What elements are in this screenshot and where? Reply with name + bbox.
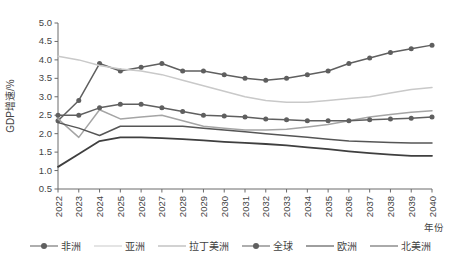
x-tick-label: 2025 bbox=[115, 196, 126, 217]
y-tick-label: 2.0 bbox=[39, 128, 52, 139]
y-tick-label: 5.0 bbox=[39, 17, 52, 28]
legend-marker-icon bbox=[253, 243, 259, 249]
y-tick-label: 4.5 bbox=[39, 35, 52, 46]
legend-item-2[interactable]: 亚洲 bbox=[94, 238, 145, 253]
legend-label: 北美洲 bbox=[401, 238, 431, 253]
x-tick-label: 2027 bbox=[156, 196, 167, 217]
series-marker bbox=[367, 56, 372, 61]
y-tick-label: 2.5 bbox=[39, 109, 52, 120]
series-marker bbox=[263, 78, 268, 83]
series-marker bbox=[139, 65, 144, 70]
x-tick-label: 2038 bbox=[385, 196, 396, 217]
series-marker bbox=[180, 68, 185, 73]
x-tick-label: 2031 bbox=[240, 196, 251, 217]
legend-label: 亚洲 bbox=[125, 238, 145, 253]
chart-canvas: 0.51.01.52.02.53.03.54.04.55.02022202320… bbox=[0, 0, 461, 268]
legend-item-3[interactable]: 拉丁美洲 bbox=[158, 238, 229, 253]
series-marker bbox=[159, 61, 164, 66]
legend-swatch bbox=[306, 240, 334, 251]
legend-swatch bbox=[242, 240, 270, 251]
legend-marker-icon bbox=[41, 243, 47, 249]
series-line bbox=[58, 110, 432, 138]
series-marker bbox=[284, 76, 289, 81]
x-tick-label: 2024 bbox=[94, 196, 105, 217]
series-1 bbox=[56, 43, 435, 124]
y-tick-label: 0.5 bbox=[39, 183, 52, 194]
legend-item-5[interactable]: 欧洲 bbox=[306, 238, 357, 253]
x-tick-label: 2032 bbox=[260, 196, 271, 217]
series-marker bbox=[284, 117, 289, 122]
legend-swatch bbox=[370, 240, 398, 251]
x-tick-label: 2040 bbox=[427, 196, 438, 217]
chart-legend: 非洲亚洲拉丁美洲全球欧洲北美洲 bbox=[0, 238, 461, 253]
series-marker bbox=[326, 118, 331, 123]
legend-label: 非洲 bbox=[61, 238, 81, 253]
legend-swatch bbox=[30, 240, 58, 251]
x-tick-label: 2035 bbox=[323, 196, 334, 217]
legend-swatch bbox=[94, 240, 122, 251]
legend-line-icon bbox=[306, 245, 334, 246]
legend-item-6[interactable]: 北美洲 bbox=[370, 238, 431, 253]
x-tick-label: 2029 bbox=[198, 196, 209, 217]
series-marker bbox=[326, 68, 331, 73]
y-tick-label: 1.5 bbox=[39, 146, 52, 157]
legend-label: 全球 bbox=[273, 238, 293, 253]
x-tick-label: 2034 bbox=[302, 196, 313, 217]
x-tick-label: 2028 bbox=[177, 196, 188, 217]
legend-line-icon bbox=[94, 245, 122, 246]
y-tick-label: 3.5 bbox=[39, 72, 52, 83]
series-marker bbox=[388, 50, 393, 55]
y-tick-label: 1.0 bbox=[39, 165, 52, 176]
series-marker bbox=[409, 116, 414, 121]
x-tick-label: 2022 bbox=[53, 196, 64, 217]
y-tick-label: 4.0 bbox=[39, 54, 52, 65]
series-marker bbox=[346, 61, 351, 66]
x-tick-label: 2033 bbox=[281, 196, 292, 217]
series-marker bbox=[367, 117, 372, 122]
legend-line-icon bbox=[158, 245, 186, 246]
series-marker bbox=[159, 105, 164, 110]
x-tick-label: 2036 bbox=[343, 196, 354, 217]
y-axis-title: GDP增速/% bbox=[4, 79, 16, 132]
series-marker bbox=[201, 68, 206, 73]
series-marker bbox=[243, 76, 248, 81]
series-marker bbox=[305, 72, 310, 77]
series-marker bbox=[180, 109, 185, 114]
series-marker bbox=[222, 72, 227, 77]
series-marker bbox=[97, 105, 102, 110]
series-marker bbox=[388, 116, 393, 121]
x-tick-label: 2030 bbox=[219, 196, 230, 217]
x-axis-title: 年份 bbox=[424, 222, 444, 233]
series-marker bbox=[305, 118, 310, 123]
series-marker bbox=[139, 102, 144, 107]
series-marker bbox=[118, 102, 123, 107]
legend-label: 欧洲 bbox=[337, 238, 357, 253]
series-6 bbox=[58, 123, 432, 143]
series-4 bbox=[56, 102, 435, 124]
series-marker bbox=[346, 118, 351, 123]
series-marker bbox=[263, 116, 268, 121]
series-marker bbox=[222, 113, 227, 118]
y-tick-label: 3.0 bbox=[39, 91, 52, 102]
x-tick-label: 2037 bbox=[364, 196, 375, 217]
legend-line-icon bbox=[370, 245, 398, 246]
series-marker bbox=[243, 115, 248, 120]
legend-swatch bbox=[158, 240, 186, 251]
series-marker bbox=[409, 46, 414, 51]
x-tick-label: 2039 bbox=[406, 196, 417, 217]
series-line bbox=[58, 45, 432, 121]
gdp-growth-line-chart: 0.51.01.52.02.53.03.54.04.55.02022202320… bbox=[0, 0, 461, 268]
legend-label: 拉丁美洲 bbox=[189, 238, 229, 253]
series-marker bbox=[76, 98, 81, 103]
series-marker bbox=[201, 113, 206, 118]
series-3 bbox=[58, 110, 432, 138]
x-tick-label: 2026 bbox=[136, 196, 147, 217]
series-marker bbox=[56, 113, 61, 118]
legend-item-4[interactable]: 全球 bbox=[242, 238, 293, 253]
x-tick-label: 2023 bbox=[73, 196, 84, 217]
series-marker bbox=[430, 43, 435, 48]
series-marker bbox=[430, 115, 435, 120]
series-line bbox=[58, 123, 432, 143]
legend-item-1[interactable]: 非洲 bbox=[30, 238, 81, 253]
series-marker bbox=[76, 113, 81, 118]
